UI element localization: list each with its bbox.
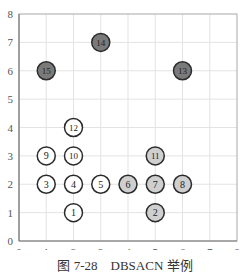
data-point-label: 2 — [153, 207, 158, 218]
data-point: 1 — [65, 204, 83, 222]
data-point: 9 — [37, 147, 55, 165]
data-point-label: 13 — [178, 66, 188, 76]
data-point: 2 — [146, 204, 164, 222]
data-point-label: 11 — [151, 151, 160, 161]
x-tick-label: 2 — [71, 246, 77, 250]
data-point: 8 — [174, 175, 192, 193]
data-point-label: 9 — [44, 150, 49, 161]
y-tick-label: 3 — [8, 150, 14, 162]
data-point-label: 8 — [180, 179, 185, 190]
figure-caption: 图 7-28 DBSACN 举例 — [0, 255, 250, 274]
tick-labels: 012345678012345678 — [8, 8, 241, 250]
data-point-label: 3 — [44, 179, 49, 190]
data-point: 12 — [65, 119, 83, 137]
data-point-label: 12 — [69, 123, 78, 133]
data-point: 10 — [65, 147, 83, 165]
x-tick-label: 3 — [98, 246, 104, 250]
x-tick-label: 1 — [44, 246, 50, 250]
data-point-label: 7 — [153, 179, 158, 190]
y-tick-label: 5 — [8, 93, 14, 105]
x-tick-label: 6 — [180, 246, 186, 250]
data-point: 15 — [37, 62, 55, 80]
scatter-chart: 012345678012345678 123456789101112131415 — [0, 0, 250, 250]
data-point-label: 14 — [96, 38, 106, 48]
data-point-label: 5 — [98, 179, 103, 190]
data-point: 11 — [146, 147, 164, 165]
x-tick-label: 8 — [234, 246, 240, 250]
y-tick-label: 1 — [8, 207, 14, 219]
x-tick-label: 5 — [153, 246, 159, 250]
y-tick-label: 0 — [8, 235, 14, 247]
data-point: 3 — [37, 175, 55, 193]
data-point-label: 15 — [42, 66, 52, 76]
y-tick-label: 6 — [8, 65, 14, 77]
x-tick-label: 7 — [207, 246, 213, 250]
data-point: 13 — [174, 62, 192, 80]
data-point-label: 6 — [126, 179, 131, 190]
data-point: 4 — [65, 175, 83, 193]
data-point: 5 — [92, 175, 110, 193]
data-point-label: 4 — [71, 179, 76, 190]
data-point: 14 — [92, 33, 110, 51]
data-point-label: 10 — [69, 151, 79, 161]
x-tick-label: 4 — [125, 246, 131, 250]
y-tick-label: 8 — [8, 8, 14, 20]
y-tick-label: 2 — [8, 178, 14, 190]
y-tick-label: 4 — [8, 122, 14, 134]
data-point: 6 — [119, 175, 137, 193]
y-tick-label: 7 — [8, 36, 14, 48]
x-tick-label: 0 — [16, 246, 22, 250]
data-point: 7 — [146, 175, 164, 193]
grid-lines — [19, 14, 237, 241]
data-point-label: 1 — [71, 207, 76, 218]
